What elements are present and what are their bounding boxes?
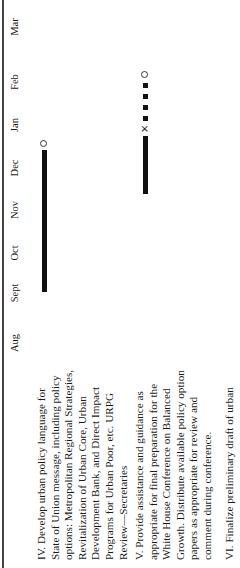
month-mar: Mar [9,18,20,36]
month-oct: Oct [9,245,20,260]
item-v-x-mark-icon: × [140,125,150,133]
text-line: State of Union message, including policy [49,370,63,560]
month-feb: Feb [9,74,20,90]
item-v-schedule-bar [143,136,148,194]
text-line: Growth. Distribute available policy opti… [174,370,188,560]
item-v-milestone-circle-icon [141,71,148,78]
text-line: Revitalization of Urban Core, Urban [76,370,90,560]
month-aug: Aug [9,334,20,352]
text-line: appropriate for final preparation for th… [147,370,161,560]
item-v-dotted-square-icon [143,116,148,121]
month-sept: Sept [9,284,20,303]
text-line: White House Conference on Balanced [160,370,174,560]
item-v-dotted-square-icon [143,105,148,110]
text-line: Programs for Urban Poor, etc. URPG [103,370,117,560]
text-line: Review—Secretaries [117,370,131,560]
item-iv-text: IV. Develop urban policy language for St… [35,370,130,560]
text-line: Development Bank, and Direct Impact [89,370,103,560]
month-nov: Nov [9,201,20,219]
month-dec: Dec [9,160,20,177]
item-vi-text: VI. Finalize preliminary draft of urban [223,387,237,560]
item-iv-milestone-circle-icon [40,140,47,147]
item-v-text: V. Provide assistance and guidance as ap… [133,370,215,560]
rotated-document-page: Aug Sept Oct Nov Dec Jan Feb Mar × IV. D… [0,0,240,568]
text-line: IV. Develop urban policy language for [35,370,49,560]
text-line: papers as appropriate for review and [187,370,201,560]
page-edge-line [2,0,4,568]
text-line: options: Metropolitan Regional Strategie… [62,370,76,560]
month-jan: Jan [9,118,20,132]
text-line: comment during conference. [201,370,215,560]
item-v-dotted-square-icon [143,83,148,88]
item-iv-schedule-bar [42,150,47,292]
item-v-dotted-square-icon [143,94,148,99]
text-line: VI. Finalize preliminary draft of urban [223,387,237,560]
text-line: V. Provide assistance and guidance as [133,370,147,560]
